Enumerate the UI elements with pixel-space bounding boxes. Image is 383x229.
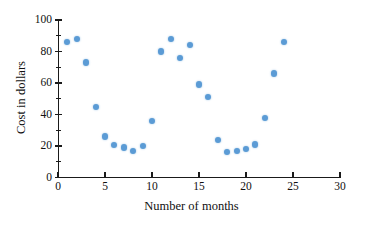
scatter-chart-figure: Cost in dollars 051015202530020406080100… bbox=[0, 0, 383, 229]
data-point bbox=[149, 118, 155, 124]
data-point bbox=[121, 144, 127, 150]
data-point bbox=[177, 55, 183, 61]
data-point bbox=[168, 36, 174, 42]
plot-area bbox=[0, 0, 383, 229]
data-point bbox=[215, 137, 221, 143]
data-point bbox=[205, 94, 211, 100]
data-point bbox=[224, 149, 230, 155]
data-point bbox=[271, 70, 277, 76]
data-point bbox=[281, 39, 287, 45]
data-point bbox=[252, 141, 258, 147]
data-point bbox=[243, 146, 249, 152]
data-point bbox=[234, 148, 240, 154]
data-point bbox=[83, 59, 89, 65]
data-point bbox=[102, 133, 108, 139]
data-point bbox=[93, 104, 99, 110]
data-point bbox=[140, 143, 146, 149]
data-point bbox=[262, 115, 268, 121]
data-point bbox=[64, 39, 70, 45]
data-point bbox=[74, 36, 80, 42]
data-point bbox=[158, 48, 164, 54]
data-point bbox=[196, 81, 202, 87]
x-axis-label: Number of months bbox=[0, 199, 383, 214]
data-point bbox=[111, 142, 117, 148]
data-point bbox=[130, 148, 136, 154]
data-point bbox=[187, 42, 193, 48]
